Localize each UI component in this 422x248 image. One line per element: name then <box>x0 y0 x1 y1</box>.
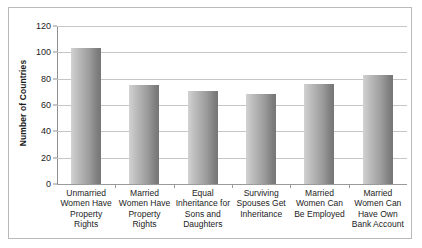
bar[interactable] <box>188 91 218 184</box>
y-tick-label: 80 <box>11 74 51 84</box>
bar-slot <box>57 26 115 184</box>
bar[interactable] <box>246 94 276 184</box>
bar-slot <box>349 26 407 184</box>
x-axis-category-label: Married Women Have Property Rights <box>115 188 173 230</box>
bar[interactable] <box>129 85 159 184</box>
bar-slot <box>115 26 173 184</box>
y-tick-label: 20 <box>11 153 51 163</box>
y-tick-label: 0 <box>11 179 51 189</box>
bar[interactable] <box>363 75 393 184</box>
plot-area: 020406080100120 <box>57 26 407 184</box>
y-tick-label: 100 <box>11 47 51 57</box>
x-axis-category-label: Equal Inheritance for Sons and Daughters <box>174 188 232 230</box>
bar-slot <box>174 26 232 184</box>
bar-slot <box>232 26 290 184</box>
chart-frame: Number of Countries 020406080100120 Unma… <box>8 7 412 239</box>
x-axis-category-label: Married Women Can Be Employed <box>290 188 348 219</box>
x-axis-category-label: Surviving Spouses Get Inheritance <box>232 188 290 219</box>
x-axis-category-label: Married Women Can Have Own Bank Account <box>349 188 407 230</box>
bar[interactable] <box>304 84 334 184</box>
x-axis-category-label: Unmarried Women Have Property Rights <box>57 188 115 230</box>
y-tick-label: 40 <box>11 126 51 136</box>
bar-slot <box>290 26 348 184</box>
y-tick-label: 60 <box>11 100 51 110</box>
x-axis-category-labels: Unmarried Women Have Property RightsMarr… <box>57 188 407 248</box>
y-tick-label: 120 <box>11 21 51 31</box>
bar[interactable] <box>71 48 101 184</box>
